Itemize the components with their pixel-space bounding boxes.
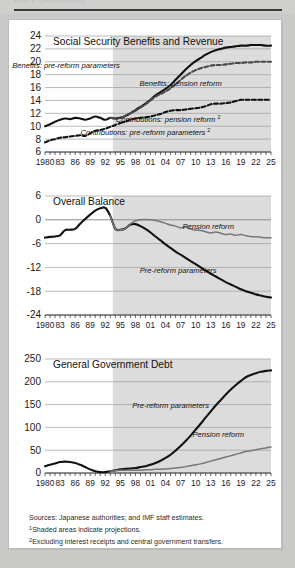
- x-tick-label: 83: [55, 478, 65, 488]
- y-tick-label: 50: [30, 445, 42, 456]
- x-tick-label: 01: [146, 320, 156, 330]
- x-tick-label: 13: [206, 478, 216, 488]
- x-tick-label: 86: [70, 320, 80, 330]
- x-tick-label: 98: [131, 157, 141, 167]
- x-tick-label: 25: [266, 157, 276, 167]
- x-tick-label: 07: [176, 478, 186, 488]
- x-tick-label: 86: [70, 157, 80, 167]
- header-rule: [14, 9, 282, 11]
- x-tick-label: 83: [55, 320, 65, 330]
- x-tick-label: 1980: [36, 478, 55, 488]
- y-tick-label: 0: [35, 214, 41, 225]
- annotation-footnote-marker: 2: [217, 114, 220, 120]
- note-1: 1Shaded areas indicate projections.: [29, 523, 274, 535]
- x-tick-label: 22: [251, 157, 261, 167]
- series-annotation: Pension reform: [182, 222, 234, 231]
- x-tick-label: 16: [221, 320, 231, 330]
- y-tick-label: 18: [30, 69, 42, 80]
- y-tick-label: 200: [24, 376, 41, 387]
- series-annotation: Contributions: pre-reform parameters: [80, 128, 205, 137]
- x-tick-label: 92: [101, 157, 111, 167]
- y-tick-label: 10: [30, 121, 42, 132]
- y-tick-label: 22: [30, 43, 42, 54]
- chart-svg: -24-18-12-606198083868992959801040710131…: [9, 180, 281, 343]
- x-tick-label: 19: [236, 157, 246, 167]
- chart-title: General Government Debt: [53, 359, 173, 370]
- x-tick-label: 19: [236, 478, 246, 488]
- x-tick-label: 19: [236, 320, 246, 330]
- note-2-text: Excluding interest receipts and central …: [32, 538, 223, 546]
- x-tick-label: 83: [55, 157, 65, 167]
- chart-stack: 6810121416182022241980838689929598010407…: [9, 20, 281, 501]
- x-tick-label: 16: [221, 157, 231, 167]
- x-tick-label: 22: [251, 478, 261, 488]
- note-1-text: Shaded areas indicate projections.: [32, 526, 141, 534]
- x-tick-label: 1980: [36, 157, 55, 167]
- x-tick-label: 07: [176, 320, 186, 330]
- x-tick-label: 04: [161, 157, 171, 167]
- x-tick-label: 04: [161, 320, 171, 330]
- x-tick-label: 04: [161, 478, 171, 488]
- x-tick-label: 89: [86, 320, 96, 330]
- series-annotation: Benefits: pre-reform parameters: [12, 61, 120, 70]
- note-2: 2Excluding interest receipts and central…: [29, 535, 274, 547]
- series-annotation: Pre-reform parameters: [132, 401, 209, 410]
- x-tick-label: 16: [221, 478, 231, 488]
- y-tick-label: 8: [35, 134, 41, 145]
- x-tick-label: 92: [101, 320, 111, 330]
- x-tick-label: 10: [191, 320, 201, 330]
- figure-page: Box 2 (concluded) 6810121416182022241980…: [0, 0, 295, 568]
- x-tick-label: 13: [206, 157, 216, 167]
- y-tick-label: -6: [32, 238, 41, 249]
- y-tick-label: 6: [35, 190, 41, 201]
- y-tick-label: 100: [24, 422, 41, 433]
- y-tick-label: 0: [35, 467, 41, 478]
- figure-notes: Sources: Japanese authorities; and IMF s…: [29, 513, 274, 548]
- x-tick-label: 95: [116, 157, 126, 167]
- series-annotation: Contributions: pension reform: [116, 115, 216, 124]
- chart-panel: 0501001502002501980838689929598010407101…: [9, 343, 281, 501]
- y-tick-label: 16: [30, 82, 42, 93]
- x-tick-label: 98: [131, 478, 141, 488]
- x-tick-label: 22: [251, 320, 261, 330]
- figure-card: 6810121416182022241980838689929598010407…: [9, 20, 281, 548]
- x-tick-label: 10: [191, 478, 201, 488]
- x-tick-label: 01: [146, 157, 156, 167]
- y-tick-label: 12: [30, 108, 42, 119]
- chart-title: Social Security Benefits and Revenue: [53, 36, 224, 47]
- x-tick-label: 10: [191, 157, 201, 167]
- x-tick-label: 98: [131, 320, 141, 330]
- x-tick-label: 13: [206, 320, 216, 330]
- y-tick-label: 14: [30, 95, 42, 106]
- x-tick-label: 95: [116, 478, 126, 488]
- x-tick-label: 07: [176, 157, 186, 167]
- y-tick-label: 150: [24, 399, 41, 410]
- y-tick-label: 6: [35, 146, 41, 157]
- y-tick-label: 250: [24, 353, 41, 364]
- y-tick-label: -12: [27, 262, 42, 273]
- x-tick-label: 86: [70, 478, 80, 488]
- header-ghost-text: Box 2 (concluded): [14, 0, 85, 4]
- y-tick-label: -18: [27, 286, 42, 297]
- chart-panel: -24-18-12-606198083868992959801040710131…: [9, 180, 281, 343]
- x-tick-label: 25: [266, 320, 276, 330]
- y-tick-label: 24: [30, 30, 42, 41]
- annotation-footnote-marker: 2: [207, 127, 210, 133]
- x-tick-label: 01: [146, 478, 156, 488]
- x-tick-label: 89: [86, 157, 96, 167]
- x-tick-label: 89: [86, 478, 96, 488]
- x-tick-label: 25: [266, 478, 276, 488]
- series-annotation: Benefits: pension reform: [139, 79, 221, 88]
- series-annotation: Pension reform: [193, 430, 245, 439]
- x-tick-label: 95: [116, 320, 126, 330]
- projection-shading: [113, 196, 271, 315]
- chart-panel: 6810121416182022241980838689929598010407…: [9, 20, 281, 180]
- note-sources: Sources: Japanese authorities; and IMF s…: [29, 513, 274, 523]
- x-tick-label: 1980: [36, 320, 55, 330]
- x-tick-label: 92: [101, 478, 111, 488]
- chart-svg: 6810121416182022241980838689929598010407…: [9, 20, 281, 180]
- series-annotation: Pre-reform parameters: [140, 266, 217, 275]
- chart-title: Overall Balance: [53, 196, 125, 207]
- chart-svg: 0501001502002501980838689929598010407101…: [9, 343, 281, 501]
- y-tick-label: -24: [27, 309, 42, 320]
